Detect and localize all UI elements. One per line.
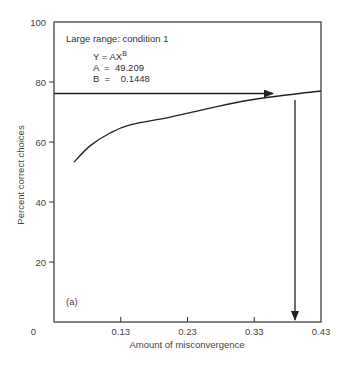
x-tick-label: 0.43 bbox=[312, 326, 331, 337]
y-axis-title: Percent correct choices bbox=[15, 125, 26, 225]
y-tick-label: 40 bbox=[35, 197, 46, 208]
fitted-curve bbox=[74, 91, 321, 162]
equation-a-value: A = 49.209 bbox=[93, 62, 144, 73]
equation-formula: Y = AXB bbox=[93, 50, 127, 62]
y-tick-label: 60 bbox=[35, 137, 46, 148]
y-tick-label: 0 bbox=[31, 326, 36, 337]
x-tick-label: 0.13 bbox=[112, 326, 131, 337]
x-tick-label: 0.33 bbox=[245, 326, 264, 337]
panel-label: (a) bbox=[66, 296, 78, 307]
x-axis-title: Amount of misconvergence bbox=[129, 339, 244, 350]
y-tick-label: 80 bbox=[35, 77, 46, 88]
chart-title: Large range: condition 1 bbox=[66, 33, 168, 44]
chart: 020406080100 0.130.230.330.43 Large rang… bbox=[0, 0, 349, 368]
y-axis-ticks: 020406080100 bbox=[30, 17, 54, 338]
x-tick-label: 0.23 bbox=[178, 326, 197, 337]
equation-formula-exponent: B bbox=[122, 50, 127, 57]
x-axis-ticks: 0.130.230.330.43 bbox=[112, 317, 331, 337]
y-tick-label: 20 bbox=[35, 257, 46, 268]
y-tick-label: 100 bbox=[30, 17, 46, 28]
equation-formula-base: Y = AX bbox=[93, 51, 123, 62]
equation-b-value: B = 0.1448 bbox=[93, 73, 150, 84]
